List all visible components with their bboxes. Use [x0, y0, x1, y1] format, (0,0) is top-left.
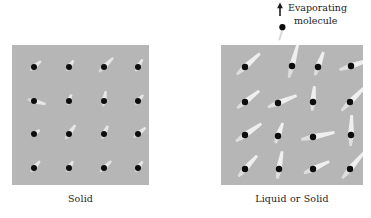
molecule-dot [242, 132, 248, 138]
molecule-dot [66, 131, 72, 137]
motion-streak [278, 29, 283, 41]
annotation-line-1: Evaporating [288, 2, 347, 13]
molecule-dot [31, 131, 37, 137]
vibration-streak [236, 154, 259, 179]
vibration-streak [274, 151, 285, 180]
molecule-dot [289, 63, 295, 69]
molecule-dot [101, 131, 107, 137]
molecule-dot [242, 166, 248, 172]
molecule-dot [135, 64, 141, 70]
panel-solid [12, 45, 149, 185]
molecule-dot [347, 99, 353, 105]
vibration-streak [286, 45, 301, 78]
molecule-dot [101, 165, 107, 171]
molecule-dot [310, 134, 316, 140]
molecule-dot [135, 98, 141, 104]
molecule-dot [310, 166, 316, 172]
molecule-dot [348, 63, 354, 69]
vibration-streak [301, 129, 336, 142]
molecule-dot [347, 166, 353, 172]
molecule-dot [31, 98, 37, 104]
vibration-streak [348, 115, 355, 146]
evaporating-molecule-dot [279, 24, 285, 30]
caption-liquid-or-solid: Liquid or Solid [221, 193, 363, 204]
vibration-streak [234, 121, 263, 144]
molecule-dot [101, 64, 107, 70]
molecule-dot [31, 165, 37, 171]
molecule-dot [31, 64, 37, 70]
molecule-dot [242, 64, 248, 70]
liquid-or-solid-lattice-graphic [221, 45, 363, 185]
molecule-dot [101, 98, 107, 104]
molecule-dot [275, 133, 281, 139]
solid-lattice-graphic [12, 45, 149, 185]
molecule-dot [66, 165, 72, 171]
panel-liquid-or-solid [221, 45, 363, 185]
vibration-streak [312, 51, 326, 76]
vibration-streak [235, 51, 262, 76]
molecule-dot [135, 165, 141, 171]
vibration-streak [303, 159, 331, 176]
molecule-dot [275, 100, 281, 106]
vibration-streak [235, 89, 261, 111]
annotation-line-2: molecule [288, 15, 347, 28]
evaporation-diagram: Solid Liquid or Solid Evaporating molecu… [0, 0, 371, 218]
vibration-streak [340, 150, 363, 180]
molecule-dot [310, 99, 316, 105]
annotation-evaporating-molecule: Evaporating molecule [288, 2, 347, 27]
molecule-dot [276, 166, 282, 172]
vibration-streak [267, 93, 298, 110]
vibration-streak [339, 84, 363, 112]
molecule-dot [348, 132, 354, 138]
molecule-dot [135, 131, 141, 137]
caption-solid: Solid [12, 193, 149, 204]
vibration-streak [309, 86, 317, 111]
molecule-dot [315, 64, 321, 70]
molecule-dot [66, 98, 72, 104]
molecule-dot [66, 64, 72, 70]
up-arrow-icon [277, 3, 283, 17]
molecule-dot [242, 99, 248, 105]
